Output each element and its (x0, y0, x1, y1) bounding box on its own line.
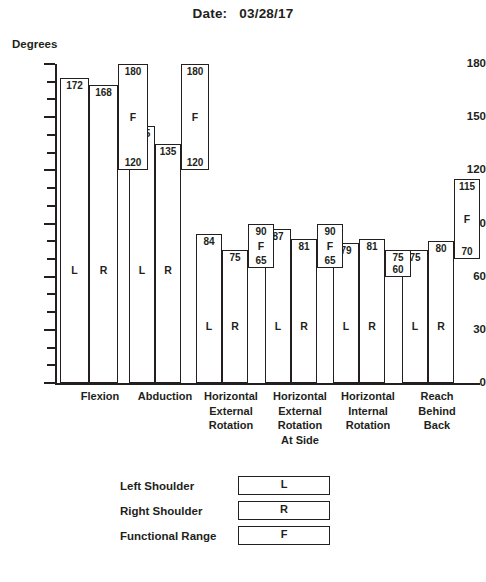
functional-range-max-label: 180 (182, 66, 208, 77)
legend-label: Left Shoulder (120, 480, 230, 492)
y-tick-label: 180 (444, 58, 486, 70)
bar-side-label: R (90, 265, 117, 276)
y-tick-minor (47, 311, 55, 313)
bar-side-label: L (197, 321, 221, 332)
y-tick-minor (47, 240, 55, 242)
bar-side-label: R (223, 321, 247, 332)
functional-range-min-label: 120 (182, 157, 208, 168)
bar-right-shoulder: 81R (291, 239, 317, 383)
y-tick-label: 150 (444, 111, 486, 123)
y-tick-major (44, 223, 55, 225)
functional-range-min-label: 65 (249, 255, 273, 266)
bar-side-label: R (429, 321, 453, 332)
functional-range-min-label: 60 (386, 264, 410, 275)
legend-swatch: F (238, 526, 330, 545)
bar-value-label: 168 (90, 87, 117, 98)
y-tick-major (44, 276, 55, 278)
bar-value-label: 172 (61, 80, 88, 91)
bar-side-label: R (360, 321, 384, 332)
bar-side-label: L (266, 321, 290, 332)
x-axis-baseline (55, 383, 480, 385)
y-tick-minor (47, 347, 55, 349)
functional-range-min-label: 70 (455, 246, 479, 257)
bar-side-label: L (403, 321, 427, 332)
legend-label: Right Shoulder (120, 505, 230, 517)
y-tick-minor (47, 98, 55, 100)
functional-range-key-label: F (249, 241, 273, 252)
y-tick-minor (47, 187, 55, 189)
legend-swatch: R (238, 501, 330, 520)
y-tick-major (44, 169, 55, 171)
functional-range-box: 9065F (317, 224, 343, 268)
functional-range-max-label: 115 (455, 181, 479, 192)
legend-swatch-key: R (239, 502, 329, 517)
bar-value-label: 75 (223, 252, 247, 263)
bar-value-label: 84 (197, 236, 221, 247)
functional-range-min-label: 120 (119, 157, 147, 168)
y-tick-minor (47, 258, 55, 260)
category-label-line: Reach (393, 389, 481, 404)
functional-range-box: 7560 (385, 250, 411, 277)
y-tick-minor (47, 293, 55, 295)
functional-range-box: 180120F (118, 64, 148, 170)
functional-range-box: 11570F (454, 179, 480, 259)
bar-side-label: L (61, 265, 88, 276)
bar-value-label: 135 (156, 146, 180, 157)
functional-range-key-label: F (455, 214, 479, 225)
y-tick-major (44, 382, 55, 384)
legend-swatch: L (238, 476, 330, 495)
functional-range-box: 180120F (181, 64, 209, 170)
y-tick-minor (47, 205, 55, 207)
y-tick-minor (47, 364, 55, 366)
bar-side-label: R (156, 265, 180, 276)
y-axis-line (55, 64, 57, 385)
functional-range-key-label: F (182, 112, 208, 123)
bar-right-shoulder: 80R (428, 241, 454, 383)
bar-left-shoulder: 172L (60, 78, 89, 383)
functional-range-key-label: F (119, 112, 147, 123)
functional-range-key-label: F (318, 241, 342, 252)
bar-right-shoulder: 75R (222, 250, 248, 383)
functional-range-max-label: 90 (318, 226, 342, 237)
bar-side-label: R (292, 321, 316, 332)
bar-right-shoulder: 81R (359, 239, 385, 383)
functional-range-max-label: 75 (386, 252, 410, 263)
bar-value-label: 81 (360, 241, 384, 252)
category-label-line: Back (393, 418, 481, 433)
functional-range-box: 9065F (248, 224, 274, 268)
bar-value-label: 81 (292, 241, 316, 252)
category-label-line: At Side (256, 433, 344, 448)
y-tick-minor (47, 152, 55, 154)
category-label-line: Behind (393, 404, 481, 419)
y-tick-minor (47, 81, 55, 83)
legend-swatch-key: L (239, 477, 329, 492)
y-tick-major (44, 63, 55, 65)
category-label: ReachBehindBack (393, 389, 481, 433)
bar-value-label: 80 (429, 243, 453, 254)
bar-side-label: L (334, 321, 358, 332)
bar-left-shoulder: 84L (196, 234, 222, 383)
functional-range-max-label: 90 (249, 226, 273, 237)
y-tick-major (44, 329, 55, 331)
y-tick-label: 120 (444, 164, 486, 176)
chart-plot-area: 1801501209060300 172L168R180120F145L135R… (0, 0, 486, 470)
legend-label: Functional Range (120, 530, 230, 542)
legend-swatch-key: F (239, 527, 329, 542)
y-tick-major (44, 116, 55, 118)
bar-right-shoulder: 135R (155, 144, 181, 383)
functional-range-max-label: 180 (119, 66, 147, 77)
functional-range-min-label: 65 (318, 255, 342, 266)
bar-side-label: L (130, 265, 154, 276)
y-tick-minor (47, 134, 55, 136)
bar-right-shoulder: 168R (89, 85, 118, 383)
